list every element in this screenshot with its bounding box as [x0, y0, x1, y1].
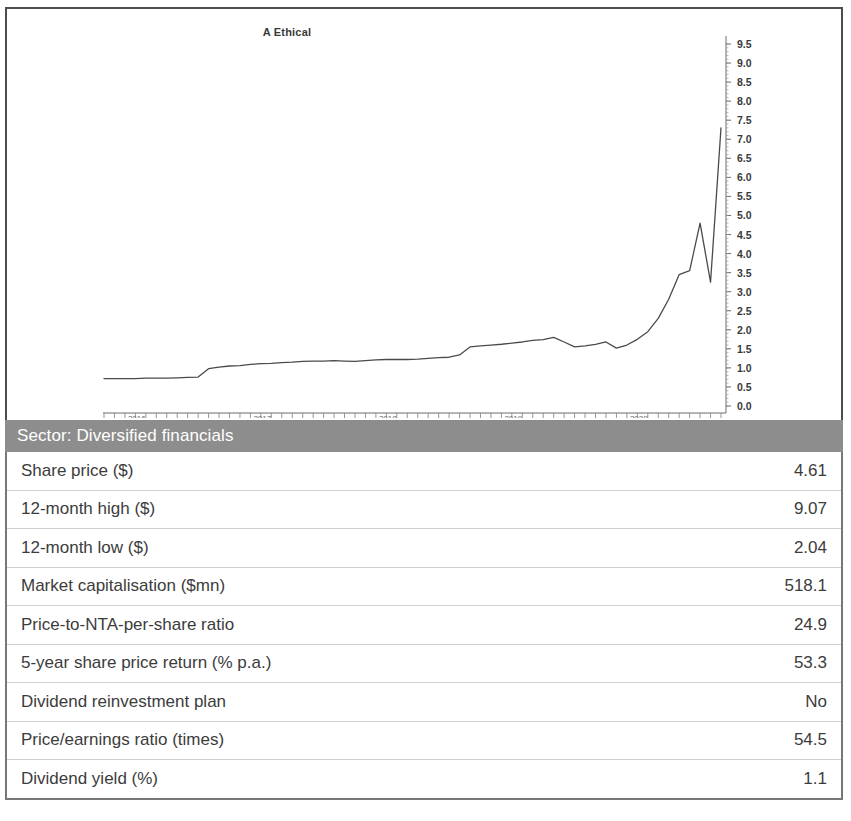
svg-text:1.5: 1.5 — [737, 343, 752, 355]
svg-text:2.0: 2.0 — [737, 324, 752, 336]
table-row: Price-to-NTA-per-share ratio24.9 — [7, 606, 841, 645]
metric-label: Market capitalisation ($mn) — [21, 576, 225, 596]
table-row: 12-month low ($)2.04 — [7, 529, 841, 568]
svg-text:5.5: 5.5 — [737, 190, 752, 202]
svg-text:2017: 2017 — [253, 414, 271, 419]
metric-value: 1.1 — [803, 769, 827, 789]
price-chart-panel: A Ethical 0.00.51.01.52.02.53.03.54.04.5… — [5, 7, 843, 420]
sector-header-bar: Sector: Diversified financials — [5, 420, 843, 452]
sector-label: Sector: Diversified financials — [5, 426, 234, 446]
svg-text:0.0: 0.0 — [737, 400, 752, 412]
svg-text:8.0: 8.0 — [737, 95, 752, 107]
table-row: Share price ($)4.61 — [7, 452, 841, 491]
svg-text:4.5: 4.5 — [737, 229, 752, 241]
table-row: Price/earnings ratio (times)54.5 — [7, 722, 841, 761]
table-row: Dividend yield (%)1.1 — [7, 760, 841, 799]
svg-text:2018: 2018 — [379, 414, 397, 419]
share-price-line-chart: 0.00.51.01.52.02.53.03.54.04.55.05.56.06… — [7, 9, 841, 418]
metric-label: Dividend yield (%) — [21, 769, 158, 789]
table-row: 12-month high ($)9.07 — [7, 491, 841, 530]
metric-value: 4.61 — [794, 461, 827, 481]
svg-text:2020: 2020 — [630, 414, 648, 419]
table-row: 5-year share price return (% p.a.)53.3 — [7, 645, 841, 684]
key-metrics-table: Share price ($)4.6112-month high ($)9.07… — [5, 452, 843, 800]
metric-label: Price-to-NTA-per-share ratio — [21, 615, 234, 635]
svg-text:7.0: 7.0 — [737, 133, 752, 145]
metric-value: No — [805, 692, 827, 712]
metric-label: Dividend reinvestment plan — [21, 692, 226, 712]
svg-text:6.0: 6.0 — [737, 171, 752, 183]
svg-text:6.5: 6.5 — [737, 152, 752, 164]
metric-label: Price/earnings ratio (times) — [21, 730, 224, 750]
svg-text:1.0: 1.0 — [737, 362, 752, 374]
metric-label: 12-month high ($) — [21, 499, 155, 519]
metric-value: 518.1 — [784, 576, 827, 596]
svg-text:3.0: 3.0 — [737, 286, 752, 298]
metric-label: Share price ($) — [21, 461, 133, 481]
svg-text:8.5: 8.5 — [737, 76, 752, 88]
svg-text:9.0: 9.0 — [737, 57, 752, 69]
svg-text:3.5: 3.5 — [737, 267, 752, 279]
svg-text:4.0: 4.0 — [737, 248, 752, 260]
metric-value: 24.9 — [794, 615, 827, 635]
table-row: Market capitalisation ($mn)518.1 — [7, 568, 841, 607]
svg-text:7.5: 7.5 — [737, 114, 752, 126]
svg-text:9.5: 9.5 — [737, 38, 752, 50]
svg-text:2016: 2016 — [128, 414, 146, 419]
svg-text:0.5: 0.5 — [737, 381, 752, 393]
metric-label: 12-month low ($) — [21, 538, 149, 558]
metric-value: 9.07 — [794, 499, 827, 519]
metric-label: 5-year share price return (% p.a.) — [21, 653, 271, 673]
svg-text:5.0: 5.0 — [737, 209, 752, 221]
svg-text:2.5: 2.5 — [737, 305, 752, 317]
svg-text:2019: 2019 — [504, 414, 522, 419]
stock-profile-page: A Ethical 0.00.51.01.52.02.53.03.54.04.5… — [0, 0, 851, 821]
metric-value: 2.04 — [794, 538, 827, 558]
table-row: Dividend reinvestment planNo — [7, 683, 841, 722]
metric-value: 53.3 — [794, 653, 827, 673]
metric-value: 54.5 — [794, 730, 827, 750]
